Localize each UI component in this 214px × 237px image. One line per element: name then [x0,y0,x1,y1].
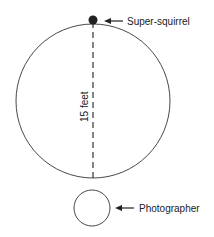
photographer-arrow-icon [115,205,134,211]
squirrel-dot [89,16,98,25]
photographer-label: Photographer [139,203,200,214]
squirrel-arrow-icon [104,18,123,24]
diagram-svg: Super-squirrel 15 feet Photographer [0,0,214,237]
distance-label: 15 feet [79,91,90,122]
photographer-circle [74,190,110,226]
diagram-canvas: Super-squirrel 15 feet Photographer [0,0,214,237]
squirrel-label: Super-squirrel [127,16,190,27]
